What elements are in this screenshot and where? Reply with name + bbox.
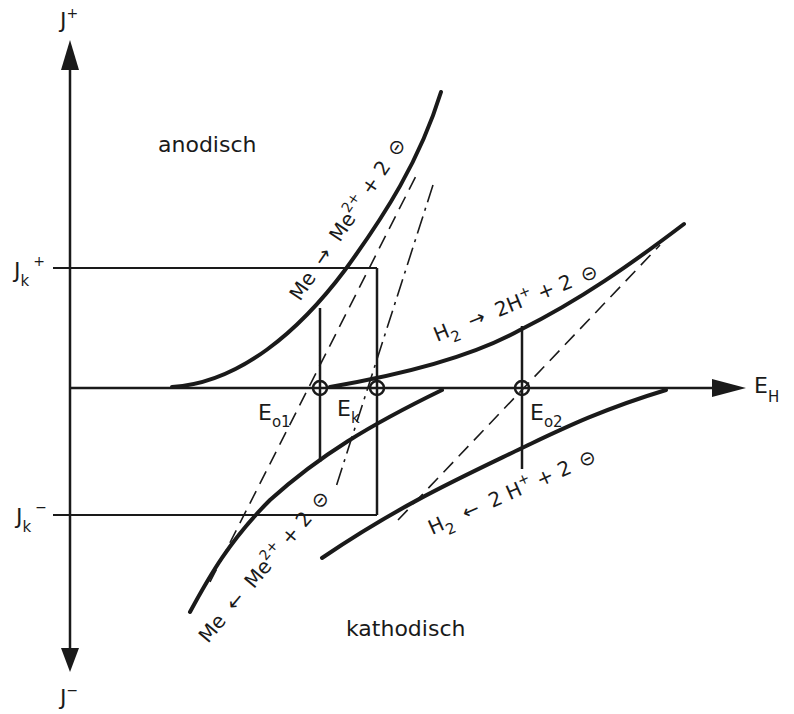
corrosion-current-potential-diagram: J+ J− EH anodisch kathodisch Jk+ Jk− (0, 0, 794, 714)
region-anodic-label: anodisch (158, 132, 256, 157)
hydrogen-cathodic-reaction: H2 ← 2 H+ + 2 ⊝ (423, 441, 602, 546)
hydrogen-anodic-reaction: H2 → 2H+ + 2 ⊝ (429, 256, 604, 353)
region-cathodic-label: kathodisch (346, 616, 465, 641)
eo1-marker (313, 381, 327, 395)
jk-minus-level (53, 388, 377, 515)
y-axis-top-label: J+ (58, 5, 78, 33)
metal-anodic-reaction: Me → Me2+ + 2 ⊝ (282, 132, 411, 305)
y-axis-up-arrowhead-icon (61, 40, 79, 70)
jk-plus-level (53, 268, 377, 388)
ek-label: Ek (337, 396, 360, 427)
ek-marker (370, 381, 384, 395)
jk-minus-label: Jk− (14, 499, 47, 536)
eo1-label: Eo1 (258, 400, 291, 431)
jk-plus-label: Jk+ (12, 253, 45, 290)
eo2-marker (515, 381, 529, 395)
y-axis (61, 40, 79, 672)
x-axis-arrowhead-icon (712, 379, 746, 397)
x-axis-label: EH (754, 373, 779, 406)
eo2-label: Eo2 (530, 400, 563, 431)
hydrogen-cathodic-curve (322, 390, 666, 558)
y-axis-bottom-label: J− (58, 682, 78, 710)
y-axis-down-arrowhead-icon (61, 648, 79, 672)
